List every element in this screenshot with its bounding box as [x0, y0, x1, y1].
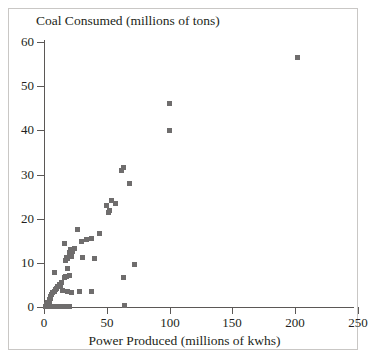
y-tick-30 — [37, 175, 44, 176]
x-tick-label-150: 150 — [212, 316, 252, 330]
y-tick-label-20: 20 — [8, 212, 34, 225]
data-point — [65, 266, 70, 271]
data-point — [167, 128, 172, 133]
data-point — [106, 210, 111, 215]
data-point — [77, 289, 82, 294]
x-tick-label-200: 200 — [275, 316, 315, 330]
y-tick-label-30: 30 — [8, 168, 34, 181]
data-point — [72, 246, 77, 251]
y-tick-20 — [37, 219, 44, 220]
data-point — [75, 227, 80, 232]
data-point — [122, 303, 127, 308]
y-tick-label-60: 60 — [8, 35, 34, 48]
y-axis-title: Coal Consumed (millions of tons) — [36, 13, 220, 28]
y-tick-label-10: 10 — [8, 256, 34, 269]
scatter-plot-figure: Coal Consumed (millions of tons) 0102030… — [0, 0, 369, 361]
data-point — [97, 231, 102, 236]
data-point — [62, 241, 67, 246]
y-tick-label-50: 50 — [8, 79, 34, 92]
data-point — [295, 55, 300, 60]
y-tick-60 — [37, 42, 44, 43]
y-tick-label-0: 0 — [8, 300, 34, 313]
y-tick-40 — [37, 130, 44, 131]
data-point — [127, 181, 132, 186]
data-point — [80, 255, 85, 260]
x-tick-label-50: 50 — [87, 316, 127, 330]
data-point — [167, 101, 172, 106]
y-tick-label-40: 40 — [8, 123, 34, 136]
x-tick-label-250: 250 — [338, 316, 369, 330]
x-tick-label-100: 100 — [150, 316, 190, 330]
data-point — [113, 201, 118, 206]
data-point — [92, 256, 97, 261]
plot-area — [44, 36, 358, 312]
data-point — [67, 273, 72, 278]
x-tick-250 — [358, 307, 359, 314]
data-point — [119, 168, 124, 173]
y-tick-10 — [37, 263, 44, 264]
data-point — [89, 289, 94, 294]
data-point — [63, 258, 68, 263]
data-point — [67, 304, 72, 309]
x-axis-title: Power Produced (millions of kwhs) — [0, 333, 369, 348]
data-point — [121, 275, 126, 280]
data-point — [89, 236, 94, 241]
data-point — [132, 262, 137, 267]
data-point — [104, 203, 109, 208]
x-tick-label-0: 0 — [24, 316, 64, 330]
data-point — [52, 270, 57, 275]
data-point — [79, 239, 84, 244]
data-point — [69, 290, 74, 295]
y-tick-50 — [37, 86, 44, 87]
